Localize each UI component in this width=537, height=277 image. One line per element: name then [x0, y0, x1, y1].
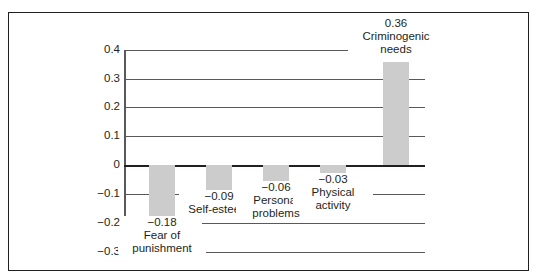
gridline-0.3	[124, 79, 425, 80]
category-label-criminogenic-needs: Criminogenic needs	[348, 30, 444, 55]
gridline-0.1	[124, 136, 425, 137]
bar-fear-of-punishment[interactable]	[149, 165, 175, 217]
category-label-line: Fear of	[118, 229, 206, 242]
y-tick-label: −0.1	[86, 188, 120, 200]
category-label-fear-of-punishment: Fear of punishment	[118, 229, 206, 254]
y-tick-label: −0.2	[86, 217, 120, 229]
y-tick-label: −0.3	[86, 246, 120, 258]
bar-self-esteem[interactable]	[206, 165, 232, 191]
y-tick-label: 0	[86, 159, 120, 171]
value-label-fear-of-punishment: −0.18	[122, 216, 202, 229]
y-tick-label: 0.3	[86, 73, 120, 85]
category-label-line: activity	[293, 199, 373, 212]
y-tick-label: 0.2	[86, 101, 120, 113]
category-label-line: Physical	[293, 186, 373, 199]
plot-area: 0.4 0.3 0.2 0.1 0 −0.1 −0.2 −0.3	[0, 0, 537, 277]
y-tick-label: 0.1	[86, 130, 120, 142]
bar-criminogenic-needs[interactable]	[383, 62, 409, 165]
category-label-physical-activity: Physical activity	[293, 186, 373, 211]
category-label-line: needs	[348, 43, 444, 56]
bar-personal-problems[interactable]	[263, 165, 289, 182]
category-label-line: Criminogenic	[348, 30, 444, 43]
category-label-line: punishment	[118, 242, 206, 255]
figure: 0.4 0.3 0.2 0.1 0 −0.1 −0.2 −0.3	[0, 0, 537, 277]
value-label-physical-activity: −0.03	[293, 173, 373, 186]
gridline-0.2	[124, 107, 425, 108]
y-tick-label: 0.4	[86, 44, 120, 56]
value-label-criminogenic-needs: 0.36	[356, 17, 436, 30]
